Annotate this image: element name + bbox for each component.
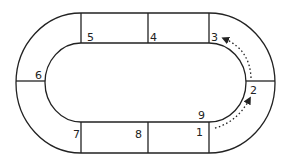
inner-track-edge xyxy=(45,43,246,122)
section-label-6: 6 xyxy=(35,70,42,81)
outer-track-edge xyxy=(16,13,275,153)
section-label-7: 7 xyxy=(73,129,80,140)
section-label-8: 8 xyxy=(135,129,142,140)
section-label-4: 4 xyxy=(150,32,157,43)
section-label-5: 5 xyxy=(87,32,94,43)
section-label-2: 2 xyxy=(250,85,257,96)
track-diagram xyxy=(0,0,291,164)
section-label-9: 9 xyxy=(198,110,205,121)
section-label-1: 1 xyxy=(196,127,203,138)
section-label-3: 3 xyxy=(211,32,218,43)
